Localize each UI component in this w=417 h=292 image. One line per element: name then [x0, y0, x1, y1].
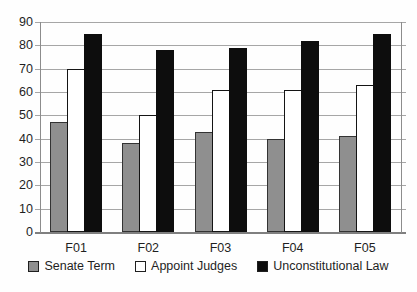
- bar-appoint-judges-f04: [284, 90, 302, 232]
- y-axis-tick-label: 60: [0, 85, 33, 99]
- plot-area: 0102030405060708090F01F02F03F04F05: [0, 0, 417, 292]
- legend-label: Unconstitutional Law: [273, 259, 388, 273]
- x-axis-category-label: F03: [184, 241, 256, 255]
- y-axis-line: [40, 22, 41, 233]
- bar-senate-term-f05: [339, 136, 357, 232]
- y-axis-tick-label: 0: [0, 225, 33, 239]
- bar-appoint-judges-f03: [212, 90, 230, 232]
- bar-senate-term-f02: [122, 143, 140, 232]
- legend-swatch-senate-term: [28, 261, 39, 272]
- bar-senate-term-f03: [195, 132, 213, 232]
- legend-item-senate-term: Senate Term: [28, 259, 115, 273]
- x-axis-category-label: F04: [257, 241, 329, 255]
- y-axis-tick-label: 20: [0, 178, 33, 192]
- bar-chart: 0102030405060708090F01F02F03F04F05 Senat…: [0, 0, 417, 292]
- bar-group-f01: [50, 34, 102, 232]
- x-axis-category-label: F01: [40, 241, 112, 255]
- y-axis-tick-label: 80: [0, 38, 33, 52]
- y-axis-tick-label: 90: [0, 15, 33, 29]
- bar-appoint-judges-f01: [67, 69, 85, 232]
- y-axis-tick-label: 70: [0, 62, 33, 76]
- bar-group-f04: [267, 41, 319, 232]
- bar-unconstitutional-law-f05: [373, 34, 391, 232]
- plot-right-border: [401, 22, 402, 233]
- chart-legend: Senate TermAppoint JudgesUnconstitutiona…: [0, 259, 417, 273]
- gridline: [35, 22, 406, 23]
- bar-appoint-judges-f02: [139, 115, 157, 232]
- x-axis-category-label: F02: [112, 241, 184, 255]
- legend-swatch-unconstitutional-law: [257, 261, 268, 272]
- legend-swatch-appoint-judges: [135, 261, 146, 272]
- legend-item-appoint-judges: Appoint Judges: [135, 259, 237, 273]
- x-axis-category-label: F05: [329, 241, 401, 255]
- legend-item-unconstitutional-law: Unconstitutional Law: [257, 259, 388, 273]
- bar-unconstitutional-law-f04: [301, 41, 319, 232]
- bar-senate-term-f04: [267, 139, 285, 232]
- bar-senate-term-f01: [50, 122, 68, 232]
- bar-group-f02: [122, 50, 174, 232]
- bar-group-f05: [339, 34, 391, 232]
- legend-label: Appoint Judges: [151, 259, 237, 273]
- bar-group-f03: [195, 48, 247, 232]
- y-axis-tick-label: 50: [0, 108, 33, 122]
- bar-unconstitutional-law-f02: [156, 50, 174, 232]
- y-axis-tick-label: 40: [0, 132, 33, 146]
- x-axis-line: [35, 232, 406, 234]
- bar-unconstitutional-law-f01: [84, 34, 102, 232]
- y-axis-tick-label: 10: [0, 202, 33, 216]
- y-axis-tick-label: 30: [0, 155, 33, 169]
- bar-unconstitutional-law-f03: [229, 48, 247, 232]
- legend-label: Senate Term: [44, 259, 115, 273]
- bar-appoint-judges-f05: [356, 85, 374, 232]
